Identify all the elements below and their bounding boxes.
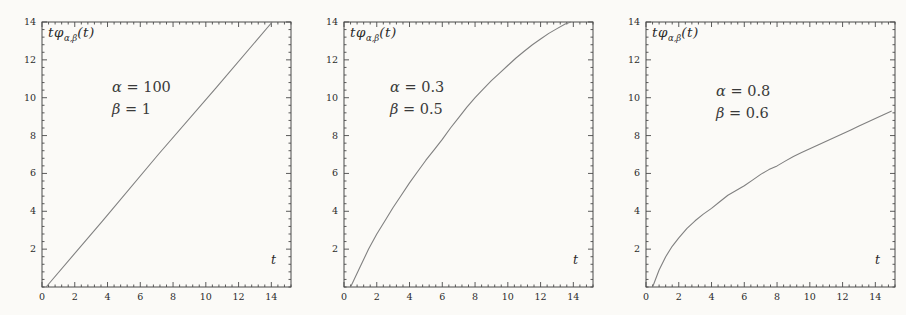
x-tick-label: 12: [233, 291, 245, 302]
alpha-value: = 0.8: [730, 83, 770, 99]
y-tick-label: 14: [628, 16, 640, 27]
y-tick-label: 2: [30, 243, 36, 254]
alpha-line: α = 0.3: [390, 76, 444, 98]
tick-labels: 024681012142468101214: [628, 16, 881, 302]
data-curve: [46, 22, 272, 287]
x-tick-label: 0: [39, 291, 45, 302]
figure-alpha-100-beta-1: 024681012142468101214 tφα,β(t) α = 100 β…: [0, 0, 302, 315]
x-tick-label: 10: [804, 291, 816, 302]
plot-canvas-1: 024681012142468101214: [0, 0, 302, 315]
beta-value: = 0.5: [403, 101, 443, 117]
axis-title-pre: tφ: [48, 24, 64, 40]
y-tick-label: 4: [332, 205, 338, 216]
plot-canvas-3: 024681012142468101214: [604, 0, 906, 315]
x-tick-label: 0: [643, 291, 649, 302]
x-tick-label: 10: [200, 291, 212, 302]
y-tick-label: 6: [332, 167, 338, 178]
y-tick-label: 14: [326, 16, 338, 27]
x-tick-label: 14: [567, 291, 579, 302]
y-axis-title: tφα,β(t): [350, 24, 397, 43]
parameter-annotation: α = 0.3 β = 0.5: [390, 76, 444, 121]
x-tick-label: 2: [374, 291, 380, 302]
axis-title-post: (t): [77, 24, 94, 40]
tick-labels: 024681012142468101214: [24, 16, 277, 302]
y-tick-label: 12: [326, 54, 338, 65]
tick-marks: [646, 22, 895, 287]
y-tick-label: 10: [628, 92, 640, 103]
x-tick-label: 8: [774, 291, 780, 302]
x-tick-label: 12: [535, 291, 547, 302]
data-curve: [351, 22, 571, 287]
y-axis-title: tφα,β(t): [48, 24, 95, 43]
beta-symbol: β: [716, 105, 724, 121]
x-tick-label: 8: [472, 291, 478, 302]
y-tick-label: 12: [628, 54, 640, 65]
y-tick-label: 6: [30, 167, 36, 178]
y-tick-label: 2: [634, 243, 640, 254]
beta-value: = 1: [125, 101, 151, 117]
x-tick-label: 2: [72, 291, 78, 302]
alpha-value: = 100: [126, 79, 170, 95]
x-tick-label: 8: [170, 291, 176, 302]
axis-title-post: (t): [681, 24, 698, 40]
plot-frame: [646, 22, 895, 287]
plot-frame: [344, 22, 593, 287]
axis-title-subscript: α,β: [366, 33, 379, 43]
axis-title-pre: tφ: [652, 24, 668, 40]
x-axis-label: t: [875, 252, 880, 267]
parameter-annotation: α = 0.8 β = 0.6: [716, 80, 770, 125]
plot-canvas-2: 024681012142468101214: [302, 0, 604, 315]
tick-marks: [344, 22, 593, 287]
alpha-value: = 0.3: [404, 79, 444, 95]
x-tick-label: 2: [676, 291, 682, 302]
beta-line: β = 0.5: [390, 98, 444, 120]
y-tick-label: 8: [30, 130, 36, 141]
alpha-line: α = 100: [112, 76, 171, 98]
alpha-symbol: α: [390, 79, 400, 95]
alpha-symbol: α: [112, 79, 122, 95]
parameter-annotation: α = 100 β = 1: [112, 76, 171, 121]
figure-alpha-08-beta-06: 024681012142468101214 tφα,β(t) α = 0.8 β…: [604, 0, 906, 315]
x-tick-label: 4: [105, 291, 111, 302]
x-axis-label: t: [573, 252, 578, 267]
y-tick-label: 10: [326, 92, 338, 103]
alpha-symbol: α: [716, 83, 726, 99]
figure-alpha-03-beta-05: 024681012142468101214 tφα,β(t) α = 0.3 β…: [302, 0, 604, 315]
y-tick-label: 8: [332, 130, 338, 141]
y-tick-label: 14: [24, 16, 36, 27]
x-tick-label: 14: [265, 291, 277, 302]
x-tick-label: 10: [502, 291, 514, 302]
axis-title-post: (t): [379, 24, 396, 40]
x-tick-label: 14: [869, 291, 881, 302]
axis-title-subscript: α,β: [668, 33, 681, 43]
y-tick-label: 4: [634, 205, 640, 216]
beta-value: = 0.6: [729, 105, 769, 121]
y-tick-label: 10: [24, 92, 36, 103]
y-tick-label: 4: [30, 205, 36, 216]
beta-line: β = 0.6: [716, 102, 770, 124]
y-tick-label: 8: [634, 130, 640, 141]
x-tick-label: 4: [709, 291, 715, 302]
axis-title-subscript: α,β: [64, 33, 77, 43]
x-tick-label: 0: [341, 291, 347, 302]
x-tick-label: 6: [439, 291, 445, 302]
x-tick-label: 6: [137, 291, 143, 302]
axis-title-pre: tφ: [350, 24, 366, 40]
beta-symbol: β: [390, 101, 398, 117]
y-tick-label: 6: [634, 167, 640, 178]
x-tick-label: 6: [741, 291, 747, 302]
alpha-line: α = 0.8: [716, 80, 770, 102]
data-curve: [653, 111, 892, 287]
x-tick-label: 12: [837, 291, 849, 302]
figures-row: 024681012142468101214 tφα,β(t) α = 100 β…: [0, 0, 906, 315]
beta-symbol: β: [112, 101, 120, 117]
y-tick-label: 12: [24, 54, 36, 65]
y-tick-label: 2: [332, 243, 338, 254]
beta-line: β = 1: [112, 98, 171, 120]
y-axis-title: tφα,β(t): [652, 24, 699, 43]
x-tick-label: 4: [407, 291, 413, 302]
x-axis-label: t: [271, 252, 276, 267]
